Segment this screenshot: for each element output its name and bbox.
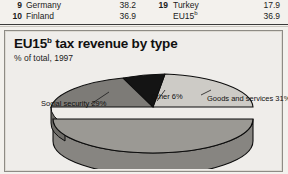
row-rank-left: 10 bbox=[0, 11, 22, 21]
row-country-left: Germany bbox=[26, 0, 61, 10]
chart-title: EU15b tax revenue by type bbox=[14, 36, 177, 51]
table-row: 10 Finland 36.9 EU15b 36.9 bbox=[0, 11, 288, 22]
row-value-left: 38.2 bbox=[96, 0, 136, 10]
row-rank-right: 19 bbox=[152, 0, 168, 10]
footnote-marker: b bbox=[194, 10, 197, 16]
chart-panel: EU15b tax revenue by type % of total, 19… bbox=[4, 30, 283, 172]
pie-label-social-security: Social security 29% bbox=[41, 99, 106, 108]
pie-chart-svg bbox=[5, 61, 282, 169]
row-value-left: 36.9 bbox=[96, 11, 136, 21]
table-fragment: 9 Germany 38.2 19 Turkey 17.9 10 Finland… bbox=[0, 0, 288, 25]
row-country-right: Turkey bbox=[173, 0, 199, 10]
table-bottom-rule-light bbox=[0, 26, 288, 27]
row-value-right: 36.9 bbox=[238, 11, 280, 21]
pie-label-other: Other 6% bbox=[151, 92, 183, 101]
figure-root: 9 Germany 38.2 19 Turkey 17.9 10 Finland… bbox=[0, 0, 288, 174]
row-country-left: Finland bbox=[26, 11, 54, 21]
table-row: 9 Germany 38.2 19 Turkey 17.9 bbox=[0, 0, 288, 11]
row-country-right: EU15b bbox=[173, 11, 198, 21]
row-rank-left: 9 bbox=[0, 0, 22, 10]
table-bottom-rule bbox=[0, 24, 288, 25]
pie-label-goods-and-services: Goods and services 31% bbox=[207, 94, 288, 103]
pie-chart: Social security 29% Other 6% Goods and s… bbox=[5, 61, 282, 169]
row-value-right: 17.9 bbox=[238, 0, 280, 10]
